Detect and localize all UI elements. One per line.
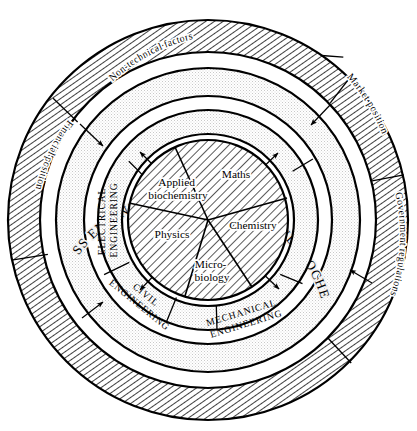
label-electrical-engineering: ELECTRICAL ENGINEERING bbox=[96, 183, 119, 258]
svg-text:Physics: Physics bbox=[155, 228, 190, 240]
svg-text:Chemistry: Chemistry bbox=[229, 219, 277, 231]
applied-line-2: biochemistry bbox=[148, 189, 208, 201]
microbiology-line-1: Micro- bbox=[195, 258, 227, 270]
onion-diagram: Non-technical factors Market position Go… bbox=[0, 0, 417, 431]
basic-sciences-core: Maths Chemistry Micro- biology Physics A… bbox=[128, 140, 288, 300]
microbiology-line-2: biology bbox=[195, 271, 230, 283]
svg-text:ELECTRICAL ENGINEERING: ELECTRICAL ENGINEERING bbox=[96, 183, 119, 258]
onion-diagram-svg: Non-technical factors Market position Go… bbox=[0, 0, 417, 431]
electrical-line-2: ENGINEERING bbox=[108, 183, 119, 258]
svg-text:Micro- biology: Micro- biology bbox=[195, 258, 230, 283]
label-microbiology: Micro- biology bbox=[195, 258, 230, 283]
electrical-line-1: ELECTRICAL bbox=[96, 188, 107, 255]
label-physics: Physics bbox=[155, 228, 190, 240]
label-maths: Maths bbox=[222, 168, 251, 180]
label-chemistry: Chemistry bbox=[229, 219, 277, 231]
svg-text:Maths: Maths bbox=[222, 168, 251, 180]
applied-line-1: Applied bbox=[158, 176, 195, 188]
